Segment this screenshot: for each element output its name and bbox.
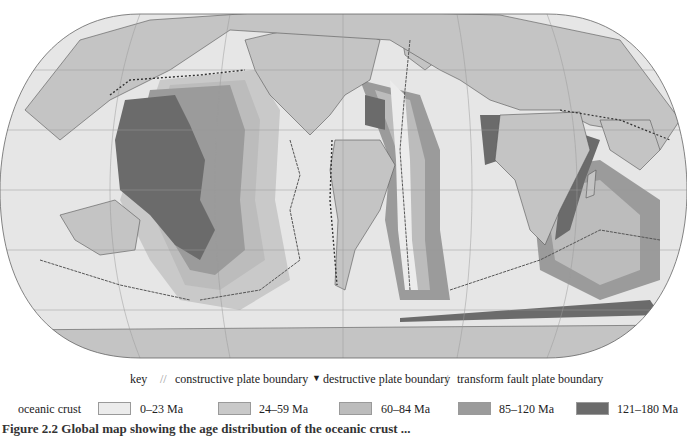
constructive-boundary-label: constructive plate boundary: [175, 372, 308, 387]
crust-class-85-120: 85–120 Ma: [499, 402, 554, 417]
boundary-key: key // constructive plate boundary ▼ des…: [0, 370, 687, 388]
crust-class-0-23: 0–23 Ma: [140, 402, 183, 417]
transform-boundary-icon: /: [445, 372, 448, 387]
crust-class-24-59: 24–59 Ma: [259, 402, 308, 417]
destructive-boundary-label: destructive plate boundary: [323, 372, 450, 387]
atlantic-121-180-west: [365, 95, 385, 130]
antarctica: [0, 325, 687, 360]
crust-class-60-84: 60–84 Ma: [381, 402, 430, 417]
crust-class-121-180: 121–180 Ma: [617, 402, 678, 417]
figure-caption: Figure 2.2 Global map showing the age di…: [2, 421, 411, 437]
crust-age-key: oceanic crust 0–23 Ma 24–59 Ma 60–84 Ma …: [0, 400, 687, 418]
transform-boundary-label: transform fault plate boundary: [457, 372, 603, 387]
swatch-121-180: [576, 402, 609, 415]
destructive-boundary-icon: ▼: [312, 373, 321, 383]
oceanic-crust-label: oceanic crust: [18, 402, 81, 417]
constructive-boundary-icon: //: [160, 372, 167, 387]
swatch-60-84: [339, 402, 372, 415]
world-map: [0, 0, 687, 360]
swatch-85-120: [458, 402, 491, 415]
swatch-0-23: [98, 402, 131, 415]
swatch-24-59: [218, 402, 251, 415]
key-label: key: [130, 372, 147, 387]
